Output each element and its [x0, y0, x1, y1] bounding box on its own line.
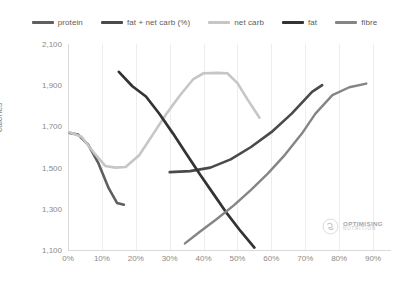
x-tick-label: 90%: [353, 254, 393, 263]
y-tick-label: 1,900: [20, 81, 62, 90]
optimising-nutrition-logo-icon: [322, 218, 339, 235]
chart-legend: proteinfat + net carb (%)net carbfatfibr…: [0, 14, 409, 30]
legend-item-fat[interactable]: fat: [282, 18, 317, 27]
x-axis-line: [68, 250, 391, 251]
legend-item-fibre[interactable]: fibre: [335, 18, 377, 27]
legend-label: fat + net carb (%): [127, 18, 190, 27]
watermark-line-2: NUTRITION: [343, 227, 383, 232]
legend-swatch-icon: [101, 21, 123, 24]
y-tick-label: 1,700: [20, 122, 62, 131]
legend-swatch-icon: [32, 21, 54, 24]
series-line-fat: [119, 72, 255, 248]
legend-label: fibre: [361, 18, 377, 27]
y-tick-label: 1,300: [20, 204, 62, 213]
legend-swatch-icon: [208, 21, 230, 24]
y-tick-label: 1,500: [20, 163, 62, 172]
line-chart: proteinfat + net carb (%)net carbfatfibr…: [0, 0, 409, 286]
legend-swatch-icon: [282, 21, 304, 24]
legend-item-net-carb[interactable]: net carb: [208, 18, 264, 27]
legend-label: net carb: [234, 18, 264, 27]
watermark-optimising-nutrition: OPTIMISING NUTRITION: [322, 218, 383, 235]
y-tick-label: 2,100: [20, 40, 62, 49]
y-axis-ticks: 2,1001,9001,7001,5001,3001,100: [18, 44, 62, 250]
legend-item-protein[interactable]: protein: [32, 18, 83, 27]
legend-label: protein: [58, 18, 83, 27]
legend-item-fat-net-carb[interactable]: fat + net carb (%): [101, 18, 190, 27]
y-axis-title: calories: [0, 103, 4, 132]
legend-swatch-icon: [335, 21, 357, 24]
legend-label: fat: [308, 18, 317, 27]
